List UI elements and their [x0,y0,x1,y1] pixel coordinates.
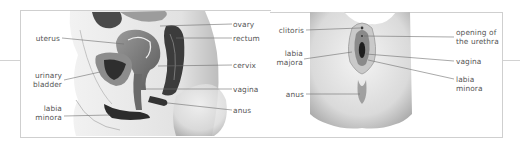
label-urinary-bladder: urinary bladder [20,71,62,89]
label-opening-of-the-urethra: opening of the urethra [456,28,499,46]
label-rectum: rectum [233,34,260,43]
label-labia-minora: labia minora [20,104,62,122]
cross-section-illustration [0,0,520,147]
label-uterus: uterus [20,34,60,43]
label-anus: anus [233,106,251,115]
label-vagina-external: vagina [456,57,481,66]
label-ovary: ovary [233,20,254,29]
anatomy-diagram: uterus urinary bladder labia minora ovar… [0,0,520,147]
label-clitoris: clitoris [270,26,304,35]
label-vagina: vagina [233,85,258,94]
label-labia-majora: labia majora [270,49,303,67]
label-anus-external: anus [270,90,304,99]
label-cervix: cervix [233,61,256,70]
label-labia-minora-external: labia minora [456,75,483,93]
